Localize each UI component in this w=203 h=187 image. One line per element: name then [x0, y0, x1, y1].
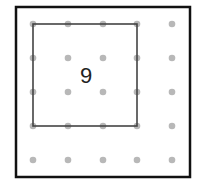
- grid-dot: [65, 157, 72, 164]
- grid-dot: [30, 157, 37, 164]
- grid-dot: [100, 157, 107, 164]
- geoboard-svg: [0, 0, 203, 187]
- grid-dot: [169, 123, 176, 130]
- grid-dot: [100, 89, 107, 96]
- grid-dot: [65, 55, 72, 62]
- grid-dot: [169, 55, 176, 62]
- grid-dot: [134, 157, 141, 164]
- grid-dot: [100, 55, 107, 62]
- grid-dot: [65, 89, 72, 96]
- grid-dot: [169, 21, 176, 28]
- grid-dot: [169, 89, 176, 96]
- area-label: 9: [80, 63, 92, 89]
- grid-dot: [169, 157, 176, 164]
